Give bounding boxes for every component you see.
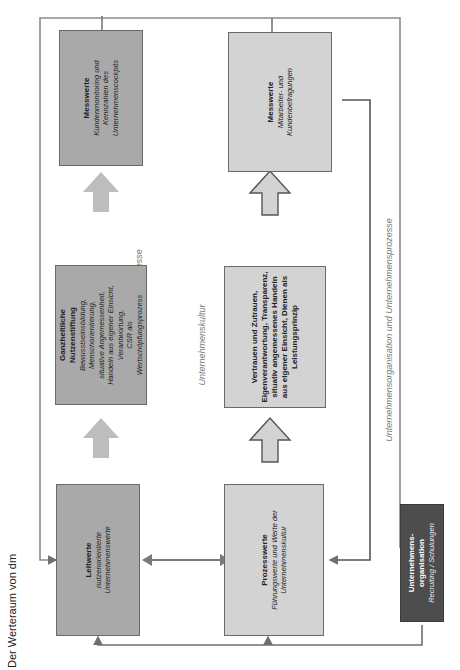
section-label-organisation: Unternehmensorganisation und Unternehmen… [382, 130, 396, 530]
box-line: Handeln aus eigener Einsicht, [106, 285, 116, 385]
box-title: Prozesswerte [260, 534, 270, 586]
box-ganzheitliche-text: Ganzheitliche Nutzenstiftung Bewusstsein… [55, 265, 147, 405]
box-subtitle: nutzenorientierte Unternehmenswerte [94, 520, 113, 600]
box-subtitle: Recruiting / Schulungen [427, 523, 437, 603]
box-line: CSR als [125, 321, 135, 349]
section-label-text: Unternehmensorganisation und Unternehmen… [384, 218, 394, 442]
box-vertrauen-text: Vertrauen und Zutrauen, Eigenverantwortu… [224, 266, 326, 408]
box-messwerte-kunden-text: Messwerte Kundenmonitoring und Kennzahle… [59, 30, 143, 166]
box-title: Messwerte [266, 82, 276, 123]
box-subtitle: Mitarbeiter- und Kundenbefragungen [276, 52, 295, 152]
box-title: Ganzheitliche Nutzenstiftung [58, 300, 78, 370]
box-title: Leitwerte [84, 542, 94, 577]
box-line: situative Angemessenheit, [97, 291, 107, 378]
box-prozesswerte-text: Prozesswerte Führungswerte und Werte der… [224, 484, 324, 636]
box-messwerte-mitarbeiter-text: Messwerte Mitarbeiter- und Kundenbefragu… [228, 32, 332, 172]
box-subtitle: Kundenmonitoring und Kennzahlen des Unte… [92, 43, 121, 153]
box-line: Bewusstseinsbildung, [78, 299, 88, 371]
box-title: Messwerte [82, 78, 92, 119]
box-organisation-text: Unternehmens-organisation Recruiting / S… [400, 504, 444, 622]
section-label-text: Unternehmenskultur [197, 304, 207, 385]
diagram-title: Der Werteraum von dm [4, 488, 20, 668]
diagram-title-text: Der Werteraum von dm [6, 554, 18, 668]
box-title: Unternehmens-organisation [407, 528, 427, 598]
box-leitwerte-text: Leitwerte nutzenorientierte Unternehmens… [56, 484, 140, 636]
box-line: Menschorientierung, [87, 301, 97, 369]
box-line: Wertschöpfungsprozess [135, 295, 145, 375]
box-subtitle: Führungswerte und Werte der Unternehmens… [270, 500, 289, 620]
section-label-unternehmenskultur: Unternehmenskultur [195, 270, 209, 420]
box-body: Vertrauen und Zutrauen, Eigenverantwortu… [250, 270, 300, 404]
box-line: Verantwortung, [116, 310, 126, 361]
